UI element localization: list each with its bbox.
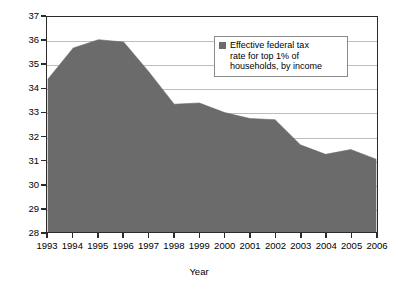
legend: Effective federal taxrate for top 1% ofh… <box>214 36 348 77</box>
x-axis-tick-label: 2001 <box>239 241 260 251</box>
y-axis-tick-label: 29 <box>0 204 39 214</box>
x-axis-tick-label: 1994 <box>62 241 83 251</box>
x-axis-tick-mark <box>122 233 124 238</box>
y-axis-tick-label: 31 <box>0 156 39 166</box>
y-axis-tick-label: 33 <box>0 108 39 118</box>
x-axis-tick-mark <box>173 233 175 238</box>
y-axis-tick-label: 36 <box>0 35 39 45</box>
y-axis-tick-mark <box>41 63 46 65</box>
legend-label-line: Effective federal tax <box>230 40 322 51</box>
y-axis-tick-label: 28 <box>0 228 39 238</box>
chart-container: Tax rate (%) 28293031323334353637 199319… <box>0 0 398 290</box>
y-axis-tick-mark <box>41 88 46 90</box>
x-axis-tick-label: 2003 <box>290 241 311 251</box>
y-axis-tick-mark <box>41 112 46 114</box>
legend-label: Effective federal taxrate for top 1% ofh… <box>230 40 322 72</box>
x-axis-tick-label: 1998 <box>163 241 184 251</box>
x-axis-tick-label: 1995 <box>87 241 108 251</box>
x-axis-tick-mark <box>300 233 302 238</box>
x-axis-tick-mark <box>199 233 201 238</box>
x-axis-tick-label: 2000 <box>214 241 235 251</box>
y-axis-tick-label: 34 <box>0 84 39 94</box>
y-axis-tick-mark <box>41 160 46 162</box>
y-axis-tick-mark <box>41 136 46 138</box>
x-axis-tick-label: 2004 <box>316 241 337 251</box>
y-axis-tick-label: 35 <box>0 59 39 69</box>
x-axis-tick-mark <box>275 233 277 238</box>
legend-label-line: rate for top 1% of <box>230 51 322 62</box>
y-axis-tick-mark <box>41 184 46 186</box>
y-axis-tick-mark <box>41 15 46 17</box>
x-axis-tick-label: 1999 <box>189 241 210 251</box>
x-axis-tick-label: 2005 <box>341 241 362 251</box>
y-axis-tick-mark <box>41 39 46 41</box>
x-axis-tick-label: 1993 <box>36 241 57 251</box>
x-axis-tick-mark <box>224 233 226 238</box>
legend-label-line: households, by income <box>230 61 322 72</box>
x-axis-tick-mark <box>72 233 74 238</box>
y-axis-tick-label: 32 <box>0 132 39 142</box>
y-axis-tick-label: 37 <box>0 11 39 21</box>
x-axis-tick-mark <box>148 233 150 238</box>
x-axis-tick-mark <box>325 233 327 238</box>
x-axis-tick-mark <box>351 233 353 238</box>
y-axis-tick-mark <box>41 232 46 234</box>
legend-swatch-icon <box>219 42 226 49</box>
x-axis-tick-label: 2002 <box>265 241 286 251</box>
x-axis-tick-mark <box>97 233 99 238</box>
x-axis-tick-mark <box>46 233 48 238</box>
x-axis-tick-mark <box>376 233 378 238</box>
x-axis-tick-label: 1996 <box>113 241 134 251</box>
y-axis-tick-mark <box>41 208 46 210</box>
x-axis-tick-mark <box>249 233 251 238</box>
x-axis-tick-label: 2006 <box>366 241 387 251</box>
y-axis-tick-label: 30 <box>0 180 39 190</box>
x-axis-title: Year <box>0 266 398 277</box>
x-axis-tick-label: 1997 <box>138 241 159 251</box>
